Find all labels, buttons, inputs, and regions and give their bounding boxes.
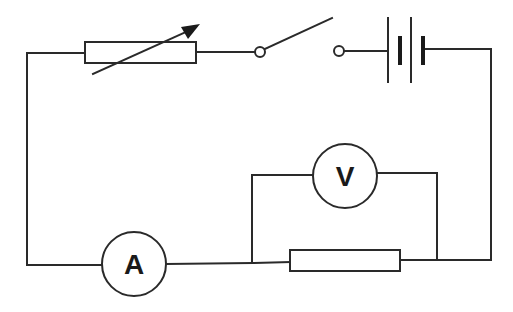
fixed-resistor [252, 250, 437, 271]
switch-terminal-left [255, 47, 265, 57]
voltmeter-branch: V [252, 144, 437, 263]
switch [255, 18, 344, 57]
voltmeter-symbol: V [336, 161, 355, 192]
battery [388, 17, 423, 83]
fixed-resistor-body [290, 250, 400, 271]
circuit-diagram: V A [0, 0, 513, 312]
switch-terminal-right [334, 46, 344, 56]
switch-lever [265, 18, 332, 49]
ammeter: A [102, 232, 166, 296]
arrow-head-icon [181, 24, 200, 39]
left-wire [27, 53, 102, 265]
wire-junction-to-resistor [252, 262, 290, 263]
wire-ammeter-to-junction [166, 263, 252, 264]
voltmeter-right-wire [377, 173, 437, 260]
variable-resistor [85, 24, 200, 74]
right-wire [423, 49, 491, 260]
main-loop-wires [27, 49, 491, 265]
ammeter-symbol: A [124, 249, 144, 280]
